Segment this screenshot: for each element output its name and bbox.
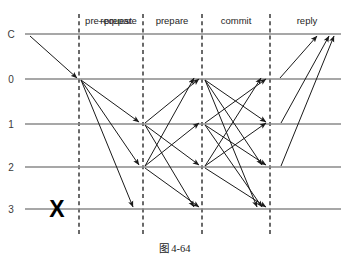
figure-caption: 图 4-64 <box>159 243 192 254</box>
faulty-node-marker: X <box>49 196 65 222</box>
node-label-3: 3 <box>8 204 14 215</box>
message-reply-2-to-C <box>281 36 334 166</box>
node-label-group: C0123 <box>7 29 14 215</box>
message-prepare-2-to-0 <box>145 78 194 166</box>
message-prepare-2-to-3 <box>145 168 199 207</box>
node-label-1: 1 <box>8 119 14 130</box>
pbft-figure: requestpre–preparepreparecommitreply C01… <box>0 0 349 264</box>
phase-label-pre-prepare: pre–prepare <box>85 15 137 26</box>
message-prepare-1-to-0 <box>145 79 199 123</box>
phase-label-group: requestpre–preparepreparecommitreply <box>85 15 317 26</box>
message-commit-2-to-3 <box>205 168 266 207</box>
message-commit-1-to-0 <box>205 79 266 123</box>
message-reply-0-to-C <box>280 36 317 78</box>
timeline-group <box>25 34 341 209</box>
message-commit-2-to-0 <box>205 78 261 166</box>
node-label-2: 2 <box>8 162 14 173</box>
message-arrow-group <box>30 36 334 207</box>
pbft-diagram-canvas: requestpre–preparepreparecommitreply C01… <box>0 0 349 264</box>
message-pre-prepare-0-to-2 <box>81 80 139 165</box>
phase-label-prepare: prepare <box>156 15 189 26</box>
message-commit-1-to-3 <box>205 125 262 207</box>
message-prepare-1-to-3 <box>145 125 194 207</box>
phase-label-commit: commit <box>221 15 252 26</box>
node-label-0: 0 <box>8 74 14 85</box>
fault-marker-group: X <box>49 196 65 222</box>
node-label-C: C <box>7 29 14 40</box>
message-request-C-to-0 <box>30 36 77 78</box>
phase-label-reply: reply <box>297 15 318 26</box>
